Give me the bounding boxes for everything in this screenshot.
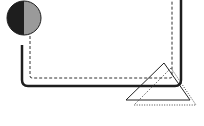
dashed-path-line <box>30 0 172 78</box>
diagram-canvas <box>0 0 204 126</box>
circle-right-half <box>24 1 41 35</box>
solid-path-line <box>22 0 181 86</box>
circle-left-half <box>7 1 24 35</box>
half-filled-circle <box>7 1 41 35</box>
